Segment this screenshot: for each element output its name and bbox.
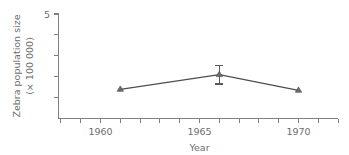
y-axis-ticks	[54, 14, 59, 98]
data-point-marker	[216, 71, 222, 76]
x-axis-title: Year	[188, 142, 209, 153]
chart-figure: 5 1960 1965 1970 Year Zebra population s…	[0, 0, 349, 155]
y-axis-title-line2: (× 100 000)	[24, 37, 35, 95]
line-chart-plot: 5 1960 1965 1970 Year Zebra population s…	[0, 0, 349, 155]
series-line-zebra	[120, 75, 298, 91]
x-tick-label-1960: 1960	[88, 126, 112, 137]
x-axis-ticks	[61, 119, 338, 124]
x-tick-label-1970: 1970	[286, 126, 310, 137]
x-tick-label-1965: 1965	[187, 126, 211, 137]
y-tick-label-5: 5	[44, 9, 50, 20]
y-axis-title-line1: Zebra population size	[11, 14, 22, 117]
